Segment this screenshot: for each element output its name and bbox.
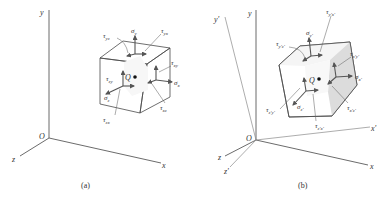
tau-z-prime-y-prime-arrow (304, 78, 306, 91)
tau-yz-arrow (127, 54, 135, 56)
origin-label: O (246, 134, 252, 143)
tau-x-prime-z-prime-label: τx'z' (347, 104, 357, 113)
origin-label: O (39, 132, 45, 141)
tau-zx-leader (115, 89, 120, 115)
z-prime-axis (230, 140, 256, 167)
z-prime-axis-label: z' (223, 167, 229, 176)
sigma-z-label: σz (104, 94, 109, 103)
x-axis (256, 140, 368, 165)
tau-z-prime-x-prime-label: τz'x' (315, 122, 325, 131)
tau-yx-leader (145, 34, 161, 51)
z-axis-label: z (217, 153, 222, 162)
tau-y-prime-z-prime-label: τy'z' (276, 40, 286, 49)
point-q-label: Q (309, 76, 315, 85)
sigma-x-label: σx (174, 79, 180, 88)
tau-y-prime-x-prime-label: τy'x' (326, 8, 336, 17)
tau-yz-label: τyz (103, 32, 110, 41)
tau-xz-arrow (148, 80, 156, 83)
point-q (317, 77, 321, 81)
sigma-y-label: σy (131, 27, 137, 36)
sigma-z-prime-label: σz' (297, 103, 304, 112)
z-axis-label: z (11, 155, 16, 164)
point-q (133, 75, 137, 79)
figure-b: y y' x' x z z' O Q (213, 8, 377, 190)
tau-zx-leader (313, 94, 316, 121)
x-prime-axis (256, 127, 370, 140)
caption-b: (b) (298, 181, 308, 190)
x-axis-label: x (369, 162, 374, 171)
sigma-x-prime-label: σx' (355, 73, 363, 82)
sigma-y-prime-label: σy' (306, 29, 314, 38)
stress-diagram: y x z O Q σy τyz τyx τxy (0, 0, 388, 201)
x-axis (49, 138, 161, 163)
tau-z-prime-y-prime-label: τz'y' (266, 106, 276, 115)
tau-xz-leader (152, 84, 165, 103)
y-axis-label: y (39, 8, 44, 17)
tau-xy-leader (159, 66, 171, 72)
tau-yz-leader (117, 38, 128, 53)
tau-zy-label: τzy (106, 75, 113, 84)
tau-x-prime-y-prime-label: τx'y' (350, 50, 360, 59)
tau-yx-label: τyx (161, 27, 169, 36)
point-q-label: Q (125, 73, 131, 82)
caption-a: (a) (81, 181, 90, 190)
x-prime-axis-label: x' (370, 124, 377, 133)
y-prime-axis (225, 17, 256, 140)
x-axis-label: x (161, 161, 166, 170)
figure-a: y x z O Q σy τyz τyx τxy (11, 8, 180, 190)
tau-zx-label: τzx (103, 116, 110, 125)
sigma-z-arrow (106, 86, 123, 94)
y-axis-label: y (247, 9, 252, 18)
tau-xz-label: τxz (160, 104, 167, 113)
y-prime-axis-label: y' (213, 15, 220, 24)
tau-xy-label: τxy (171, 59, 179, 68)
